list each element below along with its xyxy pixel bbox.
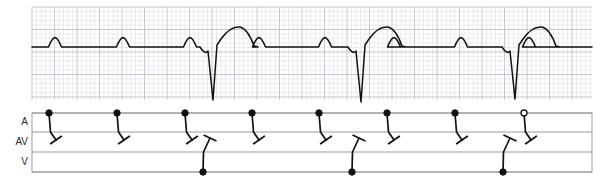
ladder-row-label-a: A <box>21 116 28 127</box>
ventricular-node-filled <box>200 169 206 175</box>
atrial-node-filled <box>182 110 188 116</box>
atrial-node-filled <box>452 110 458 116</box>
figure-background <box>0 0 608 180</box>
atrial-node-filled <box>384 110 390 116</box>
atrial-node-filled <box>316 110 322 116</box>
atrial-node-filled <box>46 110 52 116</box>
atrial-node-open <box>521 110 527 116</box>
ventricular-node-filled <box>349 169 355 175</box>
atrial-node-filled <box>114 110 120 116</box>
ecg-ladder-svg: AAVV <box>0 0 608 180</box>
ventricular-node-filled <box>500 169 506 175</box>
ladder-row-label-v: V <box>21 156 28 167</box>
ecg-ladder-figure: AAVV <box>0 0 608 180</box>
ladder-row-label-av: AV <box>15 136 28 147</box>
atrial-node-filled <box>249 110 255 116</box>
